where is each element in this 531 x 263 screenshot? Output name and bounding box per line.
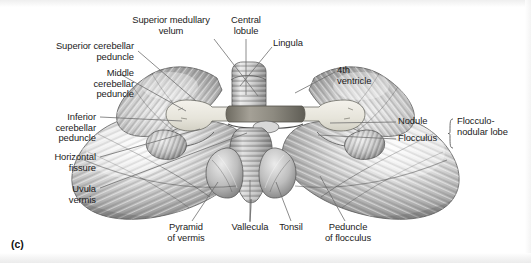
label-superior-cerebellar-peduncle: Superior cerebellar peduncle (24, 41, 134, 62)
figure-panel: Superior medullary velumCentral lobuleLi… (0, 0, 531, 263)
label-flocculonodular-lobe: Flocculo- nodular lobe (457, 116, 529, 137)
label-nodule: Nodule (398, 116, 450, 127)
label-fourth-ventricle: 4th ventricle (337, 65, 399, 86)
label-pyramid-of-vermis: Pyramid of vermis (155, 222, 217, 243)
label-middle-cerebellar-peduncle: Middle cerebellar peduncle (24, 68, 134, 100)
label-uvula-vermis: Uvula vermis (18, 184, 96, 205)
label-tonsil: Tonsil (264, 222, 318, 233)
label-lingula: Lingula (273, 38, 333, 49)
label-flocculus: Flocculus (398, 133, 450, 144)
panel-letter: (c) (11, 238, 24, 250)
label-central-lobule: Central lobule (219, 15, 273, 36)
label-superior-medullary-velum: Superior medullary velum (112, 15, 230, 36)
label-horizontal-fissure: Horizontal fissure (18, 152, 96, 173)
label-peduncle-of-flocculus: Peduncle of flocculus (311, 222, 385, 243)
label-inferior-cerebellar-peduncle: Inferior cerebellar peduncle (18, 112, 96, 144)
